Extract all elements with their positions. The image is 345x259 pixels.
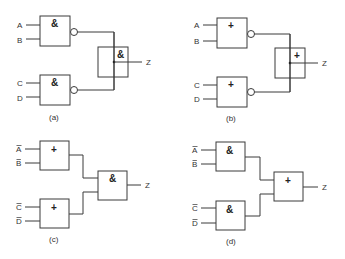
panel-d: A B & C D & + Z (d) (192, 142, 327, 246)
gate-1-symbol: + (51, 144, 57, 155)
inversion-bubble (248, 31, 255, 38)
input-d-bar-label: D (16, 217, 22, 226)
gate-1-symbol: & (226, 145, 233, 156)
input-c-label: C (194, 81, 200, 90)
output-z-label: Z (322, 59, 327, 68)
input-d-label: D (194, 95, 200, 104)
input-c-label: C (17, 79, 23, 88)
input-d-label: D (17, 94, 23, 103)
output-gate-symbol: & (109, 173, 116, 184)
input-c-bar-label: C (16, 203, 22, 212)
input-a-label: A (194, 21, 200, 30)
output-gate-symbol: + (294, 50, 300, 61)
input-c-bar-label: C (192, 204, 198, 213)
caption-d: (d) (226, 237, 236, 246)
gate-2-symbol: + (51, 202, 57, 213)
panel-b: A B + C D + + Z (b) (194, 18, 327, 123)
input-a-bar-label: A (192, 146, 198, 155)
inversion-bubble (71, 29, 78, 36)
caption-c: (c) (49, 235, 59, 244)
input-a-bar-label: A (16, 145, 22, 154)
output-z-label: Z (146, 58, 151, 67)
output-z-label: Z (322, 183, 327, 192)
gate-2-symbol: & (226, 204, 233, 215)
input-b-bar-label: B (16, 159, 21, 168)
logic-diagram: A B & C D & & Z (a) A B + C D (0, 0, 345, 259)
input-b-bar-label: B (192, 160, 197, 169)
panel-c: A B + C D + & Z (c) (16, 141, 150, 244)
input-a-label: A (17, 21, 23, 30)
gate-2-symbol: & (51, 77, 58, 88)
caption-a: (a) (49, 113, 59, 122)
gate-1-symbol: + (228, 20, 234, 31)
inversion-bubble (71, 87, 78, 94)
inversion-bubble (248, 89, 255, 96)
input-b-label: B (17, 36, 22, 45)
output-z-label: Z (145, 181, 150, 190)
caption-b: (b) (226, 114, 236, 123)
gate-2-symbol: + (228, 79, 234, 90)
output-gate-symbol: + (285, 175, 291, 186)
input-b-label: B (194, 37, 199, 46)
input-d-bar-label: D (192, 219, 198, 228)
panel-a: A B & C D & & Z (a) (17, 16, 151, 122)
output-gate-symbol: & (117, 49, 124, 60)
gate-1-symbol: & (51, 18, 58, 29)
